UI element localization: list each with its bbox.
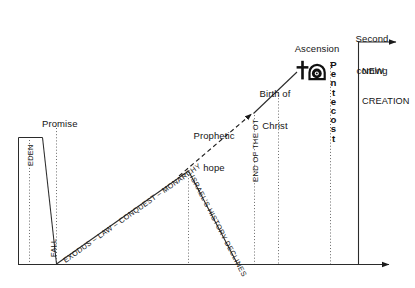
empty-tomb-icon — [310, 65, 325, 79]
label-second-coming-line1: Second — [343, 34, 401, 45]
label-new-creation-line1: NEW — [362, 66, 414, 76]
label-prophetic-hope: Prophetic hope — [183, 110, 245, 195]
label-prophetic-hope-line1: Prophetic — [183, 131, 245, 142]
label-prophetic-hope-line2: hope — [183, 163, 245, 174]
diagram-canvas: EDEN FALL Promise EXODUS – LAW – CONQUES… — [0, 0, 415, 288]
label-ascension: Ascension — [286, 44, 348, 55]
label-pentecost: P e n t e c o s t — [328, 60, 339, 143]
pentecost-letter: t — [328, 134, 339, 143]
label-fall: FALL — [50, 239, 58, 257]
label-birth-of-christ-line2: Christ — [245, 121, 305, 132]
label-new-creation: NEW CREATION — [362, 45, 414, 127]
label-promise: Promise — [42, 119, 78, 130]
label-birth-of-christ-line1: Birth of — [245, 89, 305, 100]
label-birth-of-christ: Birth of Christ — [245, 68, 305, 153]
label-new-creation-line2: CREATION — [362, 96, 414, 106]
label-eden: EDEN — [27, 144, 35, 166]
